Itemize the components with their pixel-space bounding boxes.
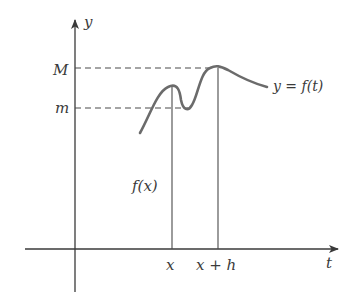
function-graph: y t M m x x + h y = f(t) f(x) [0, 0, 357, 305]
x-plus-h-tick-label: x + h [196, 256, 236, 274]
y-axis-label: y [83, 13, 93, 31]
function-curve [140, 66, 267, 133]
t-axis-label: t [326, 254, 333, 272]
curve-label: y = f(t) [272, 78, 323, 94]
fx-height-label: f(x) [131, 177, 158, 195]
max-label: M [52, 61, 69, 79]
min-label: m [55, 99, 69, 117]
x-tick-label: x [166, 256, 175, 274]
